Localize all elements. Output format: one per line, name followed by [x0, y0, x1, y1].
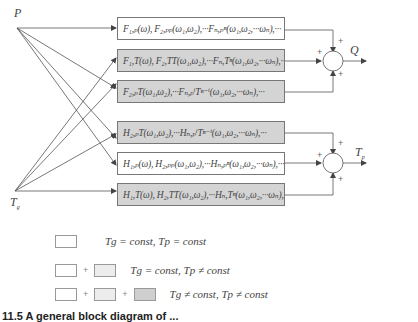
- box-h1: H₂,ₚT(ω₁,ω₂),···Hₙ,ₚⁱTⁿ⁻ⁱ(ω₁,ω₂,···ωₙ),·…: [117, 121, 285, 144]
- legend-box-light: [94, 288, 116, 301]
- legend-text: Tg = const, Tp = const: [105, 235, 206, 247]
- input-tg-label: Tg: [10, 195, 20, 210]
- legend-text: Tg = const, Tp ≠ const: [130, 264, 230, 276]
- p-to-f3-line: [17, 28, 116, 88]
- box-f2: F₁,T(ω), F₂,TT(ω₁,ω₂),···Fₙ,Tⁿ(ω₁,ω₂,···…: [117, 49, 285, 72]
- f1-to-q-line: [285, 30, 333, 52]
- legend-plus: +: [83, 265, 88, 275]
- tp-summer-wiring: [285, 133, 366, 195]
- tp-plus-top: +: [338, 138, 343, 148]
- box-f1: F₁,ₚ(ω), F₂,ₚₚ(ω₁,ω₂),···Fₙ,ₚⁿ(ω₁,ω₂,···…: [117, 17, 285, 40]
- tg-connections: [15, 58, 116, 191]
- legend-box-white: [55, 288, 77, 301]
- p-connections: [17, 28, 116, 165]
- legend-box-white: [55, 264, 77, 277]
- output-tp-label: Tp: [355, 145, 365, 160]
- f3-to-q-line: [285, 71, 333, 92]
- q-plus-bottom: +: [338, 69, 343, 79]
- tg-to-f3-line: [15, 84, 116, 191]
- legend-row-2: + Tg = const, Tp ≠ const: [55, 263, 230, 277]
- q-summer-wiring: [285, 30, 366, 92]
- legend-box-light: [94, 264, 116, 277]
- q-plus-top: +: [338, 36, 343, 46]
- legend-row-1: Tg = const, Tp = const: [55, 234, 206, 248]
- box-h2: H₁,ₚ(ω), H₂,ₚₚ(ω₁,ω₂),···Hₙ,ₚⁿ(ω₁,ω₂,···…: [117, 152, 285, 175]
- box-h3: H₁,T(ω), H₂,TT(ω₁,ω₂),···Hₙ,Tⁿ(ω₁,ω₂,···…: [117, 183, 285, 206]
- h1-to-tp-line: [285, 133, 333, 154]
- tp-summing-junction: [323, 153, 343, 173]
- h3-to-tp-line: [285, 173, 333, 195]
- legend-box-white: [55, 235, 77, 248]
- tg-to-f2-line: [15, 58, 116, 191]
- p-to-h1-line: [17, 28, 116, 138]
- tg-to-h1-line: [15, 134, 116, 191]
- legend-plus: +: [83, 289, 88, 299]
- tp-plus-left: +: [317, 150, 322, 160]
- legend-box-dark: [134, 288, 156, 301]
- q-summing-junction: [323, 51, 343, 71]
- legend-text: Tg ≠ const, Tp ≠ const: [170, 288, 268, 300]
- q-plus-left: +: [317, 47, 322, 57]
- tp-plus-bottom: +: [338, 174, 343, 184]
- legend-row-3: + + Tg ≠ const, Tp ≠ const: [55, 287, 268, 301]
- input-p-label: P: [14, 6, 21, 21]
- p-to-h2-line: [17, 28, 116, 165]
- legend-plus: +: [122, 289, 127, 299]
- figure-caption: 11.5 A general block diagram of ...: [2, 310, 178, 322]
- box-f3: F₂,ₚT(ω₁,ω₂),···Fₙ,ₚⁱTⁿ⁻ⁱ(ω₁,ω₂,···ωₙ),·…: [117, 80, 285, 103]
- output-q-label: Q: [350, 43, 359, 58]
